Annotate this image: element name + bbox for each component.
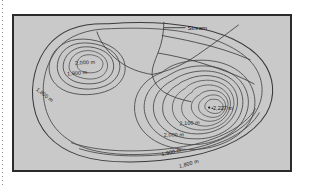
figure-page: 2,000 m 1,900 m 1,800 m •2,227 m 2,100 m… [0,0,310,188]
contour-label-east-2000: 2,000 m [164,132,185,138]
spot-elevation-label: •2,227 m [211,105,233,111]
stream-tributary-right [152,25,239,75]
stream-main-channel [152,22,164,75]
contour-west-ring-2 [57,43,120,89]
contour-map-svg: 2,000 m 1,900 m 1,800 m •2,227 m 2,100 m… [14,16,290,170]
contour-east-ring-1 [135,60,255,149]
contour-west-ring-3 [63,47,114,84]
contour-label-west-2000: 2,000 m [75,59,96,66]
topographic-map-frame: 2,000 m 1,900 m 1,800 m •2,227 m 2,100 m… [12,14,292,172]
stream-tributary-left [97,32,152,75]
contour-secondary-outer [43,28,262,154]
contour-label-east-1800: 1,800 m [178,158,200,169]
page-margin-dotted-rule [2,0,3,188]
contour-label-east-2100: 2,100 m [179,119,200,126]
contour-label-east-1900: 1,900 m [161,147,183,158]
contour-label-outer-1800-west: 1,800 m [35,86,55,103]
spot-elevation-dot [208,107,210,109]
stream-label: Stream [187,25,207,31]
contour-label-west-1900: 1,900 m [67,69,88,76]
